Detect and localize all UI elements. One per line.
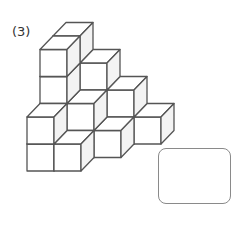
cube-front-face bbox=[27, 117, 54, 144]
cube-front-face bbox=[27, 144, 54, 171]
cube-front-face bbox=[54, 144, 81, 171]
cube-front-face bbox=[67, 104, 94, 131]
cube-front-face bbox=[80, 63, 107, 90]
cube-front-face bbox=[134, 117, 161, 144]
cube-front-face bbox=[40, 50, 67, 77]
cube-front-face bbox=[107, 90, 134, 117]
cube-front-face bbox=[94, 131, 121, 158]
cube-front-face bbox=[40, 77, 67, 104]
answer-box[interactable] bbox=[158, 148, 231, 204]
